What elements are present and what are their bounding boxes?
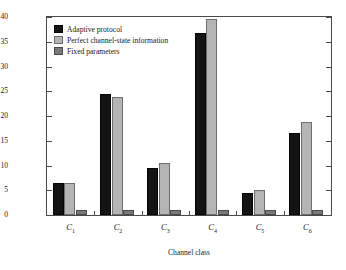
legend-swatch — [54, 47, 63, 55]
y-axis-tick-label: 0 — [0, 210, 8, 219]
x-axis-title: Channel class — [46, 248, 332, 257]
bar — [100, 94, 111, 215]
y-axis-tick — [326, 17, 331, 18]
legend-swatch — [54, 25, 63, 33]
legend-item: Perfect channel-state information — [54, 35, 168, 45]
x-axis-tick-label: C6 — [287, 222, 327, 234]
bar — [254, 190, 265, 215]
bar — [218, 210, 229, 215]
bar — [301, 122, 312, 215]
bar — [265, 210, 276, 215]
bar — [289, 133, 300, 215]
y-axis-tick-label: 35 — [0, 37, 8, 46]
bar — [112, 97, 123, 215]
y-axis-tick-label: 20 — [0, 111, 8, 120]
bar — [312, 210, 323, 215]
x-axis-tick-label: C1 — [51, 222, 91, 234]
y-axis-tick — [326, 190, 331, 191]
x-axis-tick — [236, 211, 237, 215]
y-axis-tick — [47, 190, 52, 191]
y-axis-tick — [326, 42, 331, 43]
chart-figure: Normalized throughput efficiency Adaptiv… — [0, 0, 346, 270]
legend-label: Adaptive protocol — [67, 25, 122, 34]
y-axis-tick — [47, 141, 52, 142]
y-axis-tick — [47, 116, 52, 117]
y-axis-tick — [47, 17, 52, 18]
y-axis-tick-label: 30 — [0, 62, 8, 71]
y-axis-tick — [47, 67, 52, 68]
y-axis-tick-label: 10 — [0, 161, 8, 170]
y-axis-tick — [326, 215, 331, 216]
y-axis-tick — [47, 91, 52, 92]
legend-swatch — [54, 36, 63, 44]
y-axis-tick — [326, 166, 331, 167]
y-axis-tick-label: 25 — [0, 86, 8, 95]
x-axis-tick — [142, 211, 143, 215]
x-axis-tick — [189, 211, 190, 215]
y-axis-tick-label: 40 — [0, 12, 8, 21]
y-axis-tick — [326, 67, 331, 68]
legend-item: Adaptive protocol — [54, 24, 168, 34]
x-axis-tick-label: C3 — [145, 222, 185, 234]
x-axis-tick-label: C4 — [193, 222, 233, 234]
y-axis-tick — [326, 116, 331, 117]
bar — [53, 183, 64, 215]
legend-item: Fixed parameters — [54, 46, 168, 56]
bar — [170, 210, 181, 215]
bar — [242, 193, 253, 215]
legend-label: Perfect channel-state information — [67, 36, 168, 45]
y-axis-tick — [326, 141, 331, 142]
legend-label: Fixed parameters — [67, 47, 120, 56]
bar — [147, 168, 158, 215]
y-axis-tick-label: 15 — [0, 136, 8, 145]
y-axis-tick — [47, 215, 52, 216]
bar — [123, 210, 134, 215]
y-axis-tick — [47, 42, 52, 43]
y-axis-tick-label: 5 — [0, 185, 8, 194]
bar — [159, 163, 170, 215]
bar — [64, 183, 75, 215]
x-axis-tick — [284, 211, 285, 215]
bar — [206, 19, 217, 215]
x-axis-tick — [94, 211, 95, 215]
y-axis-tick — [326, 91, 331, 92]
x-axis-tick-label: C5 — [240, 222, 280, 234]
x-axis-tick-label: C2 — [98, 222, 138, 234]
bar — [195, 33, 206, 215]
chart-legend: Adaptive protocolPerfect channel-state i… — [54, 24, 168, 56]
y-axis-tick — [47, 166, 52, 167]
bar — [76, 210, 87, 215]
